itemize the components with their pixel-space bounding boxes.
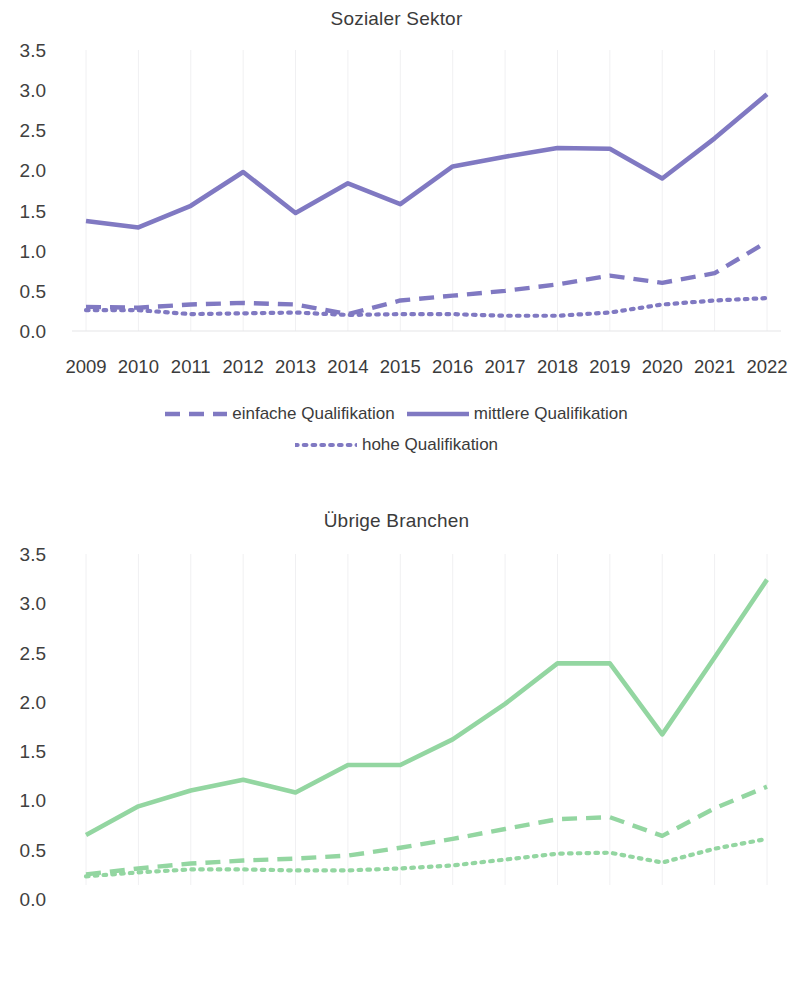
x-axis-tick-label: 2016 (432, 358, 473, 377)
y-axis-labels-bottom: 3.53.02.52.01.51.00.50.0 (0, 530, 46, 885)
y-axis-tick-label: 0.5 (20, 281, 46, 300)
y-axis-tick-label: 1.0 (20, 791, 46, 810)
y-axis-tick-label: 0.0 (20, 322, 46, 341)
x-axis-tick-label: 2015 (380, 358, 421, 377)
chart-title-bottom: Übrige Branchen (0, 500, 793, 530)
series-line-solid (86, 94, 767, 227)
y-axis-tick-label: 3.0 (20, 594, 46, 613)
legend-row: hohe Qualifikation (0, 436, 793, 453)
line-plot-bottom (0, 530, 793, 885)
x-axis-tick-label: 2010 (118, 358, 159, 377)
y-axis-labels-top: 3.53.02.52.01.51.00.50.0 (0, 28, 46, 348)
y-axis-tick-label: 3.5 (20, 41, 46, 60)
legend-row: einfache Qualifikationmittlere Qualifika… (0, 405, 793, 422)
y-axis-tick-label: 3.5 (20, 545, 46, 564)
x-axis-tick-label: 2018 (537, 358, 578, 377)
x-axis-tick-label: 2009 (65, 358, 106, 377)
legend-label: hohe Qualifikation (362, 436, 498, 453)
legend-item[interactable]: mittlere Qualifikation (407, 405, 628, 422)
x-axis-tick-label: 2022 (746, 358, 787, 377)
x-axis-tick-label: 2014 (327, 358, 368, 377)
x-axis-tick-label: 2019 (589, 358, 630, 377)
series-line-dotted (86, 298, 767, 316)
legend-swatch-dashed-icon (165, 409, 227, 419)
y-axis-tick-label: 2.0 (20, 161, 46, 180)
legend-swatch-solid-icon (407, 409, 469, 419)
y-axis-tick-label: 2.5 (20, 643, 46, 662)
y-axis-tick-label: 0.0 (20, 890, 46, 909)
chart-title-top: Sozialer Sektor (0, 0, 793, 28)
series-line-solid (86, 580, 767, 835)
chart-uebrige-branchen: Übrige Branchen 3.53.02.52.01.51.00.50.0… (0, 500, 793, 1000)
legend-top: einfache Qualifikationmittlere Qualifika… (0, 405, 793, 453)
x-axis-tick-label: 2011 (171, 358, 211, 377)
chart-sozialer-sektor: Sozialer Sektor 3.53.02.52.01.51.00.50.0… (0, 0, 793, 500)
x-axis-tick-label: 2013 (275, 358, 316, 377)
line-plot-top (0, 28, 793, 348)
y-axis-tick-label: 1.0 (20, 241, 46, 260)
y-axis-tick-label: 1.5 (20, 742, 46, 761)
legend-item[interactable]: einfache Qualifikation (165, 405, 395, 422)
legend-label: einfache Qualifikation (232, 405, 395, 422)
legend-label: mittlere Qualifikation (474, 405, 628, 422)
legend-item[interactable]: hohe Qualifikation (295, 436, 498, 453)
y-axis-tick-label: 2.0 (20, 692, 46, 711)
y-axis-tick-label: 0.5 (20, 840, 46, 859)
x-axis-tick-label: 2020 (642, 358, 683, 377)
x-axis-labels-top: 2009201020112012201320142015201620172018… (0, 358, 793, 382)
plot-area-bottom: 3.53.02.52.01.51.00.50.0 (0, 530, 793, 885)
x-axis-tick-label: 2012 (223, 358, 264, 377)
y-axis-tick-label: 3.0 (20, 81, 46, 100)
y-axis-tick-label: 1.5 (20, 201, 46, 220)
legend-swatch-dotted-icon (295, 440, 357, 450)
y-axis-tick-label: 2.5 (20, 121, 46, 140)
x-axis-tick-label: 2017 (484, 358, 525, 377)
x-axis-tick-label: 2021 (694, 358, 735, 377)
plot-area-top: 3.53.02.52.01.51.00.50.0 (0, 28, 793, 348)
